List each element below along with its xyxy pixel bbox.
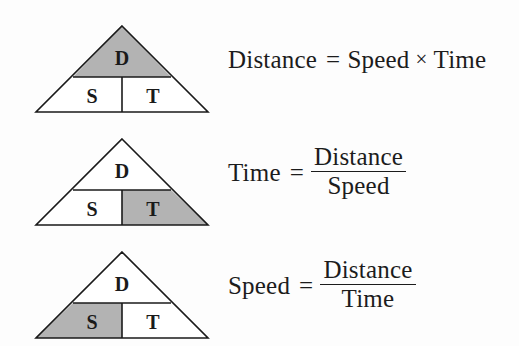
fraction-denominator: Time (339, 285, 398, 312)
equals-sign: = (290, 159, 304, 187)
triangle-diagram-time: D S T (30, 133, 216, 229)
triangle-cell-bottom-right-fill (122, 303, 208, 338)
triangle-label-bottom-left: S (86, 311, 97, 333)
triangle-svg: D S T (30, 246, 216, 342)
equation-factor-2: Time (434, 46, 487, 74)
triangle-label-top: D (115, 47, 129, 69)
triangle-label-bottom-right: T (146, 85, 160, 107)
equation-lhs: Speed (228, 272, 290, 300)
triangle-label-top: D (115, 160, 129, 182)
equals-sign: = (326, 46, 340, 74)
formula-row-distance: D S T Distance = Speed × Time (0, 2, 519, 117)
equation-factor-1: Speed (347, 46, 409, 74)
triangle-label-bottom-right: T (146, 198, 160, 220)
fraction-numerator: Distance (320, 257, 415, 284)
triangle-cell-bottom-left-fill (36, 77, 122, 112)
equals-sign: = (299, 272, 313, 300)
triangle-diagram-distance: D S T (30, 20, 216, 116)
triangle-cell-bottom-left-fill (36, 190, 122, 225)
fraction-denominator: Speed (324, 172, 392, 199)
triangle-cell-bottom-right-fill (122, 190, 208, 225)
equation-lhs: Time (228, 159, 281, 187)
triangle-label-bottom-left: S (86, 85, 97, 107)
equation-time: Time = Distance Speed (228, 115, 406, 230)
triangle-cell-bottom-right-fill (122, 77, 208, 112)
triangle-svg: D S T (30, 20, 216, 116)
triangle-label-bottom-right: T (146, 311, 160, 333)
formula-row-time: D S T Time = Distance Speed (0, 115, 519, 230)
triangle-diagram-speed: D S T (30, 246, 216, 342)
triangle-cell-bottom-left-fill (36, 303, 122, 338)
triangle-label-bottom-left: S (86, 198, 97, 220)
fraction: Distance Time (320, 257, 415, 313)
equation-distance: Distance = Speed × Time (228, 2, 486, 117)
multiplication-operator: × (416, 47, 428, 72)
equation-speed: Speed = Distance Time (228, 228, 416, 343)
diagram-canvas: D S T Distance = Speed × Time D S (0, 0, 519, 346)
triangle-label-top: D (115, 273, 129, 295)
formula-row-speed: D S T Speed = Distance Time (0, 228, 519, 343)
triangle-svg: D S T (30, 133, 216, 229)
fraction: Distance Speed (311, 144, 406, 200)
fraction-numerator: Distance (311, 144, 406, 171)
equation-lhs: Distance (228, 46, 317, 74)
